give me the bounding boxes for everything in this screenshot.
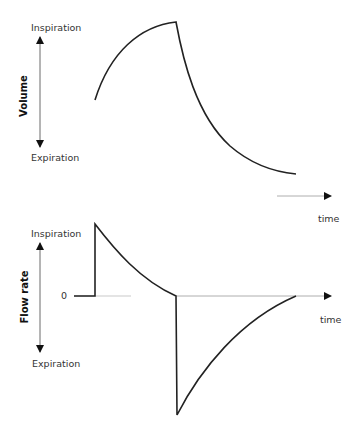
volume-curve xyxy=(95,22,296,174)
flow-axis-title: Flow rate xyxy=(19,270,30,323)
volume-panel: Inspiration Volume Expiration time xyxy=(18,22,340,224)
flow-rate-panel: Inspiration Flow rate Expiration 0 time xyxy=(19,224,342,415)
flow-inspiration-label: Inspiration xyxy=(31,228,81,239)
volume-axis-title: Volume xyxy=(18,75,29,117)
zero-label: 0 xyxy=(61,290,67,301)
volume-expiration-label: Expiration xyxy=(31,152,79,163)
flow-time-label: time xyxy=(320,314,342,325)
flow-expiration-label: Expiration xyxy=(32,358,80,369)
volume-inspiration-label: Inspiration xyxy=(31,22,81,33)
volume-time-label: time xyxy=(318,213,340,224)
ventilation-waveform-diagram: Inspiration Volume Expiration time Inspi… xyxy=(0,0,350,431)
flow-curve xyxy=(74,224,296,415)
